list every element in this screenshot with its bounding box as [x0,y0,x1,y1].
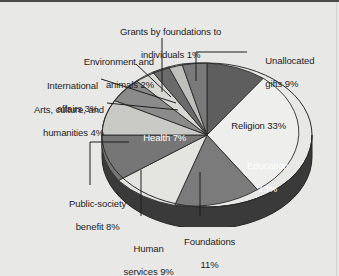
label-public-society-line2: benefit 8% [76,221,120,232]
label-education-line2: 13% [258,183,277,194]
label-unallocated-line1: Unallocated [265,55,314,66]
label-environment-line2: animals 2% [106,79,154,90]
label-environment-line1: Environment and [84,56,154,67]
label-unallocated-gifts: Unallocated gifts 9% [250,43,336,101]
label-foundations-line1: Foundations [184,236,235,247]
label-religion: Religion 33% [216,108,286,143]
label-health: Health 7% [128,120,186,155]
label-education: Education 13% [229,148,291,206]
chart-frame: Grants by foundations to individuals 1% … [0,0,339,276]
label-foundations-line2: 11% [201,259,219,270]
label-religion-line1: Religion 33% [231,120,286,131]
label-international-line1: International [47,80,98,91]
label-arts-culture-humanities: Arts, culture, and humanities 4% [2,92,104,150]
label-grants-line1: Grants by foundations to [120,26,221,37]
label-arts-line2: humanities 4% [43,127,104,138]
label-public-society-line1: Public-society [69,198,126,209]
label-foundations: Foundations 11% [163,224,241,276]
label-health-line1: Health 7% [143,132,186,143]
pie-chart: Grants by foundations to individuals 1% … [0,2,339,276]
label-human-services-line1: Human [134,243,164,254]
label-unallocated-line2: gifts 9% [265,78,298,89]
label-arts-line1: Arts, culture, and [34,104,104,115]
label-education-line1: Education [247,160,288,171]
